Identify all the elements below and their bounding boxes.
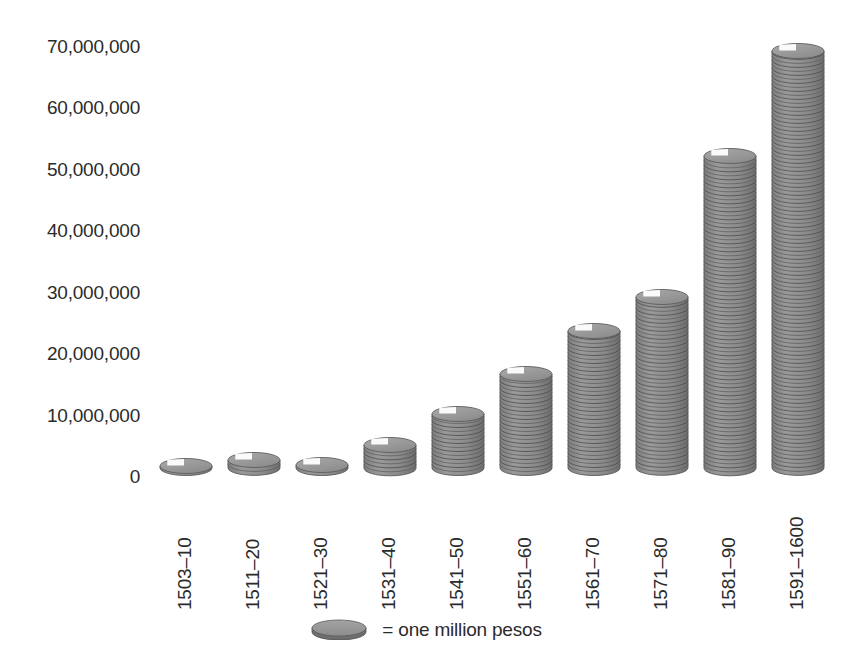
coin-stack-1511-20 bbox=[224, 451, 284, 477]
y-tick-label: 10,000,000 bbox=[0, 405, 140, 424]
y-tick-label: 40,000,000 bbox=[0, 221, 140, 240]
bar-coin-stack bbox=[492, 1, 560, 477]
y-tick-label: 60,000,000 bbox=[0, 98, 140, 117]
legend-label: = one million pesos bbox=[382, 620, 541, 639]
x-tick-label: 1571–80 bbox=[651, 480, 670, 610]
x-tick-label: 1591–1600 bbox=[787, 480, 806, 610]
coin-stack-1551-60 bbox=[496, 365, 556, 477]
bar-coin-stack bbox=[288, 1, 356, 477]
x-tick-label: 1531–40 bbox=[379, 480, 398, 610]
coin-stack-1591-1600 bbox=[768, 42, 828, 477]
bar-coin-stack bbox=[220, 1, 288, 477]
bar-coin-stack bbox=[628, 1, 696, 477]
bar-coin-stack bbox=[560, 1, 628, 477]
x-axis: 1503–101511–201521–301531–401541–501551–… bbox=[150, 480, 850, 610]
x-tick-label: 1511–20 bbox=[243, 480, 262, 610]
x-tick-label: 1551–60 bbox=[515, 480, 534, 610]
bar-coin-stack bbox=[424, 1, 492, 477]
coin-stack-bar-chart: 70,000,00060,000,00050,000,00040,000,000… bbox=[0, 0, 852, 667]
coin-icon bbox=[310, 618, 368, 640]
coin-stack-1531-40 bbox=[360, 436, 420, 477]
chart-legend: = one million pesos bbox=[0, 618, 852, 640]
bar-coin-stack bbox=[764, 1, 832, 477]
coin-stack-1503-10 bbox=[156, 457, 216, 477]
y-tick-label: 50,000,000 bbox=[0, 159, 140, 178]
x-tick-label: 1581–90 bbox=[719, 480, 738, 610]
coin-stack-1581-90 bbox=[700, 147, 760, 477]
coin-stack-1521-30 bbox=[292, 456, 352, 477]
y-tick-label: 20,000,000 bbox=[0, 344, 140, 363]
y-tick-label: 70,000,000 bbox=[0, 36, 140, 55]
bar-coin-stack bbox=[152, 1, 220, 477]
y-tick-label: 0 bbox=[0, 467, 140, 486]
coin-stack-1571-80 bbox=[632, 288, 692, 477]
y-tick-label: 30,000,000 bbox=[0, 282, 140, 301]
plot-area bbox=[150, 0, 850, 477]
x-tick-label: 1521–30 bbox=[311, 480, 330, 610]
bar-coin-stack bbox=[696, 1, 764, 477]
x-tick-label: 1541–50 bbox=[447, 480, 466, 610]
y-axis: 70,000,00060,000,00050,000,00040,000,000… bbox=[0, 0, 140, 500]
bar-coin-stack bbox=[356, 1, 424, 477]
x-tick-label: 1561–70 bbox=[583, 480, 602, 610]
coin-stack-1541-50 bbox=[428, 405, 488, 477]
x-tick-label: 1503–10 bbox=[175, 480, 194, 610]
coin-stack-1561-70 bbox=[564, 322, 624, 477]
